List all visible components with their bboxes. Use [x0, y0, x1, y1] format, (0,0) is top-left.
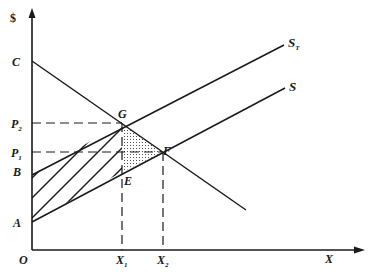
curve-st-label: ST	[288, 35, 300, 52]
economics-diagram: $ X O C P2 P1 B A X1 X2 G F E ST S	[0, 0, 370, 279]
point-f-label: F	[162, 144, 171, 158]
label-b: B	[12, 165, 21, 179]
curve-s-label: S	[289, 79, 296, 94]
point-g-label: G	[118, 107, 127, 121]
label-c: C	[12, 55, 21, 69]
origin-label: O	[19, 253, 28, 267]
y-axis-label: $	[10, 11, 16, 25]
hatched-area-abge	[0, 110, 200, 230]
x-axis-arrow-icon	[354, 247, 365, 254]
label-p2: P2	[11, 117, 22, 133]
x-axis-label: X	[324, 252, 334, 266]
label-a: A	[12, 216, 21, 230]
label-x1: X1	[115, 253, 128, 269]
label-p1: P1	[11, 146, 22, 162]
y-axis-arrow-icon	[29, 8, 36, 18]
point-e-label: E	[123, 174, 132, 188]
demand-curve	[32, 61, 246, 210]
label-x2: X2	[156, 253, 169, 269]
